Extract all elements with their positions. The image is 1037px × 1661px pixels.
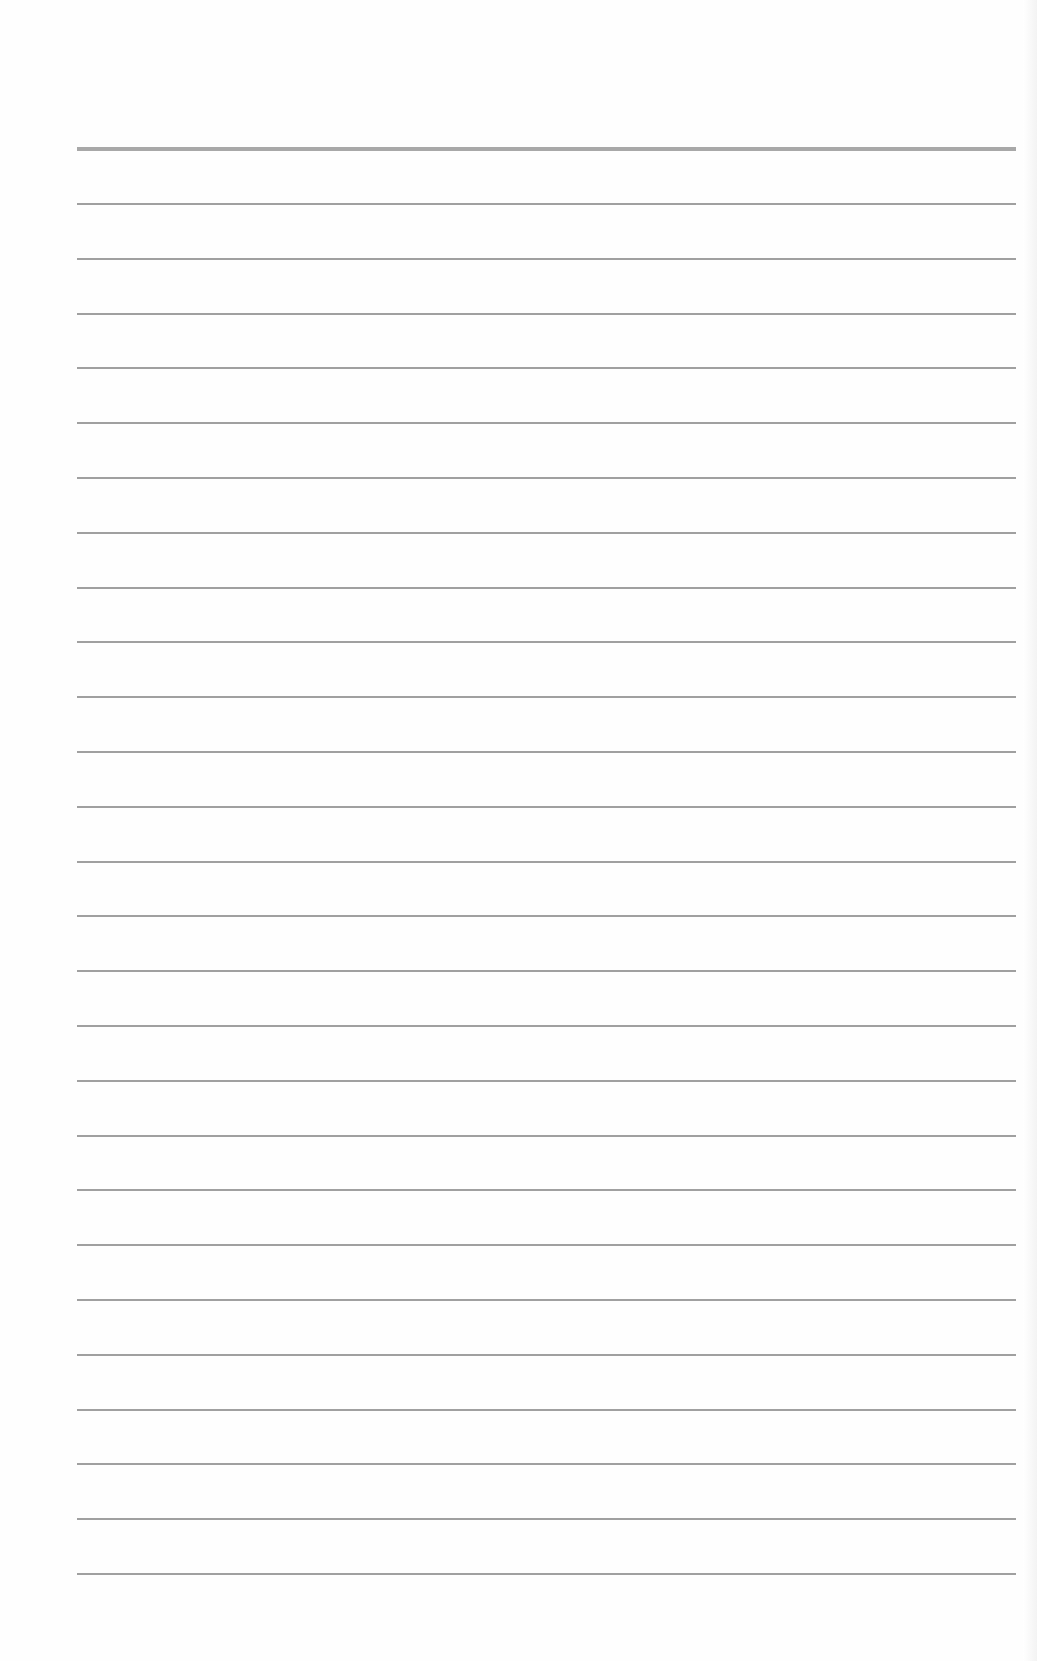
ruled-line	[77, 422, 1016, 424]
ruled-line	[77, 806, 1016, 808]
ruled-line	[77, 1135, 1016, 1137]
ruled-line	[77, 1573, 1016, 1575]
ruled-line	[77, 532, 1016, 534]
ruled-line	[77, 915, 1016, 917]
ruled-line	[77, 313, 1016, 315]
ruled-line	[77, 1299, 1016, 1301]
ruled-line	[77, 587, 1016, 589]
ruled-line	[77, 1244, 1016, 1246]
ruled-line	[77, 477, 1016, 479]
ruled-line	[77, 1080, 1016, 1082]
ruled-line	[77, 1354, 1016, 1356]
ruled-line	[77, 367, 1016, 369]
ruled-line	[77, 1409, 1016, 1411]
ruled-line	[77, 1463, 1016, 1465]
ruled-line	[77, 696, 1016, 698]
ruled-line	[77, 641, 1016, 643]
lined-paper-page	[0, 0, 1037, 1661]
ruled-line	[77, 1025, 1016, 1027]
ruled-line	[77, 751, 1016, 753]
ruled-line	[77, 1189, 1016, 1191]
ruled-line	[77, 258, 1016, 260]
ruled-line	[77, 970, 1016, 972]
top-rule-line	[77, 147, 1016, 151]
ruled-line	[77, 203, 1016, 205]
ruled-line	[77, 861, 1016, 863]
ruled-line	[77, 1518, 1016, 1520]
page-edge-shadow	[1023, 0, 1037, 1661]
